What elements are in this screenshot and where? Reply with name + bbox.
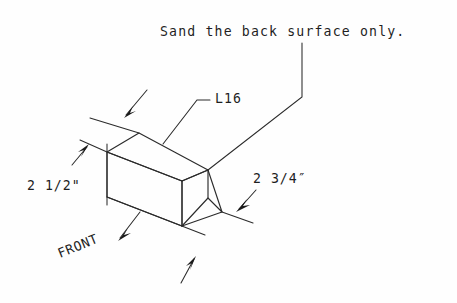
top-face-outline <box>107 133 208 181</box>
dimension-extension-lines <box>80 118 253 235</box>
top-back-extension-line <box>90 118 139 133</box>
height-dimension-text: 2 1/2" <box>27 178 81 193</box>
top-edge-arrow-icon <box>124 106 136 118</box>
drawing-svg: Sand the back surface only. L16 2 1/2" 2… <box>0 0 457 303</box>
part-label-text: L16 <box>215 91 242 106</box>
front-leader-line <box>120 212 140 238</box>
orientation-label-text: FRONT <box>56 231 101 261</box>
text-annotations: Sand the back surface only. L16 2 1/2" 2… <box>27 24 405 261</box>
technical-drawing-canvas: Sand the back surface only. L16 2 1/2" 2… <box>0 0 457 303</box>
chamfer-arrow-icon <box>236 199 250 212</box>
front-arrow-icon <box>118 228 131 241</box>
back-surface-note-leader-line <box>208 43 302 170</box>
bottom-front-arrow-icon <box>186 256 196 270</box>
chamfer-extension-line <box>222 212 253 223</box>
right-side-face <box>182 170 208 226</box>
part-label-leader-line <box>163 100 210 144</box>
chamfer-dimension-text: 2 3/4″ <box>253 171 307 186</box>
chamfer-facet <box>208 170 222 212</box>
front-face-outline <box>107 152 182 226</box>
bottom-front-extension-line <box>107 197 205 235</box>
part-body-geometry <box>107 133 222 226</box>
back-surface-note-text: Sand the back surface only. <box>160 24 405 39</box>
